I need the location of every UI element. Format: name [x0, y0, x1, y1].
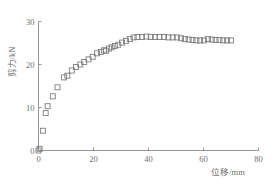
y-axis-title: 剪力/kN — [7, 47, 17, 78]
data-point-marker — [62, 75, 67, 80]
chart-plot-area: 0204060800102030位移/mm剪力/kN — [0, 0, 274, 187]
y-tick-label: 20 — [26, 60, 35, 70]
data-point-marker — [112, 44, 117, 49]
x-tick-label: 40 — [144, 154, 153, 164]
data-point-marker — [43, 111, 48, 116]
y-tick-label: 30 — [26, 17, 35, 27]
y-tick-label: 0 — [30, 146, 34, 156]
x-tick-label: 0 — [36, 154, 40, 164]
data-point-marker — [65, 73, 70, 78]
data-point-marker — [45, 104, 50, 109]
data-point-marker — [55, 85, 60, 90]
x-tick-label: 80 — [254, 154, 263, 164]
data-series — [36, 34, 234, 153]
x-axis-title: 位移/mm — [211, 167, 245, 177]
x-tick-label: 20 — [89, 154, 98, 164]
data-point-marker — [40, 128, 45, 133]
data-point-marker — [50, 94, 55, 99]
x-tick-label: 60 — [199, 154, 208, 164]
y-tick-label: 10 — [26, 103, 35, 113]
chart-figure: 0204060800102030位移/mm剪力/kN — [0, 0, 274, 187]
